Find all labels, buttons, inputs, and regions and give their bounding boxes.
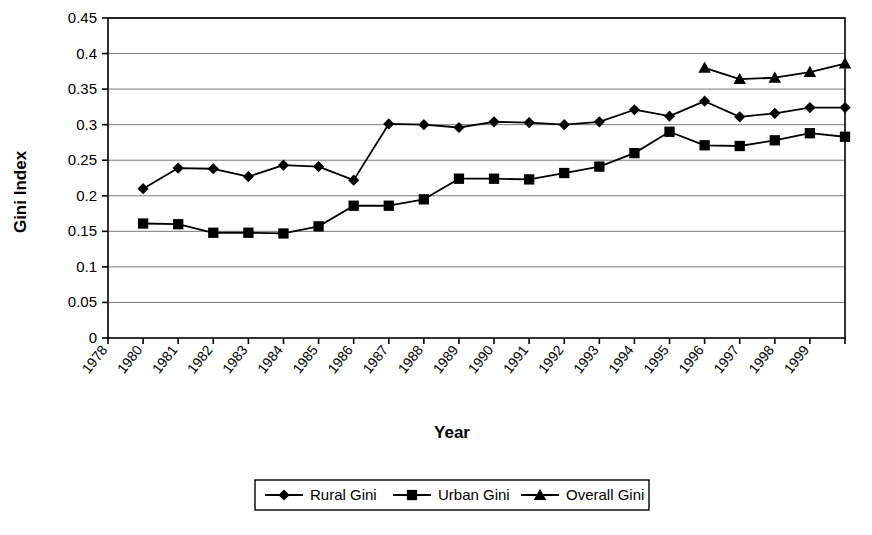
data-point-marker (138, 218, 148, 228)
y-tick-label: 0.2 (76, 187, 97, 204)
data-point-marker (770, 135, 780, 145)
y-axis-title: Gini Index (11, 150, 30, 233)
y-tick-label: 0.25 (68, 151, 97, 168)
legend: Rural GiniUrban GiniOverall Gini (255, 480, 649, 510)
data-point-marker (559, 168, 569, 178)
y-tick-label: 0.45 (68, 9, 97, 26)
data-point-marker (313, 221, 323, 231)
data-point-marker (173, 219, 183, 229)
data-point-marker (594, 161, 604, 171)
data-point-marker (805, 128, 815, 138)
data-point-marker (840, 132, 850, 142)
legend-label: Urban Gini (438, 486, 510, 503)
y-tick-label: 0.4 (76, 45, 97, 62)
data-point-marker (419, 194, 429, 204)
y-tick-label: 0.15 (68, 222, 97, 239)
legend-label: Rural Gini (310, 486, 377, 503)
legend-label: Overall Gini (566, 486, 644, 503)
gini-index-line-chart: 00.050.10.150.20.250.30.350.40.45 197819… (0, 0, 872, 535)
y-tick-label: 0.35 (68, 80, 97, 97)
data-point-marker (629, 148, 639, 158)
legend-marker-square (407, 490, 417, 500)
chart-canvas: 00.050.10.150.20.250.30.350.40.45 197819… (0, 0, 872, 535)
data-point-marker (349, 201, 359, 211)
data-point-marker (735, 141, 745, 151)
x-axis-title: Year (434, 423, 470, 442)
y-tick-label: 0.3 (76, 116, 97, 133)
data-point-marker (454, 174, 464, 184)
y-tick-label: 0.1 (76, 258, 97, 275)
data-point-marker (243, 228, 253, 238)
data-point-marker (208, 228, 218, 238)
data-point-marker (699, 140, 709, 150)
data-point-marker (384, 201, 394, 211)
data-point-marker (278, 228, 288, 238)
data-point-marker (664, 127, 674, 137)
y-tick-label: 0.05 (68, 293, 97, 310)
data-point-marker (489, 174, 499, 184)
data-point-marker (524, 174, 534, 184)
